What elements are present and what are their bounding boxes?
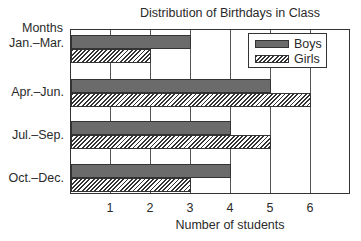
legend-swatch-boys: [255, 40, 289, 48]
legend: Boys Girls: [248, 33, 327, 68]
x-axis-label: Number of students: [150, 218, 310, 232]
bar-boys-0: [71, 35, 191, 49]
bar-boys-1: [71, 79, 271, 93]
bar-boys-3: [71, 164, 231, 178]
category-label-apr-jun: Apr.–Jun.: [11, 85, 64, 99]
bar-boys-2: [71, 121, 231, 135]
category-label-jul-sep: Jul.–Sep.: [12, 128, 64, 142]
legend-swatch-girls: [255, 55, 289, 63]
legend-item-girls: Girls: [255, 52, 320, 66]
legend-label-girls: Girls: [294, 52, 320, 66]
bar-girls-0: [71, 49, 151, 63]
x-tick-2: 2: [140, 201, 160, 215]
x-tick-5: 5: [260, 201, 280, 215]
x-tick-6: 6: [300, 201, 320, 215]
legend-label-boys: Boys: [294, 37, 322, 51]
bar-girls-2: [71, 135, 271, 149]
bar-girls-3: [71, 178, 191, 192]
bar-girls-1: [71, 93, 311, 107]
legend-item-boys: Boys: [255, 37, 322, 51]
x-tick-3: 3: [180, 201, 200, 215]
category-label-jan-mar: Jan.–Mar.: [9, 36, 64, 50]
chart-title: Distribution of Birthdays in Class: [110, 6, 350, 20]
category-label-oct-dec: Oct.–Dec.: [8, 171, 64, 185]
x-tick-4: 4: [220, 201, 240, 215]
y-axis-label: Months: [22, 21, 63, 35]
x-tick-1: 1: [100, 201, 120, 215]
